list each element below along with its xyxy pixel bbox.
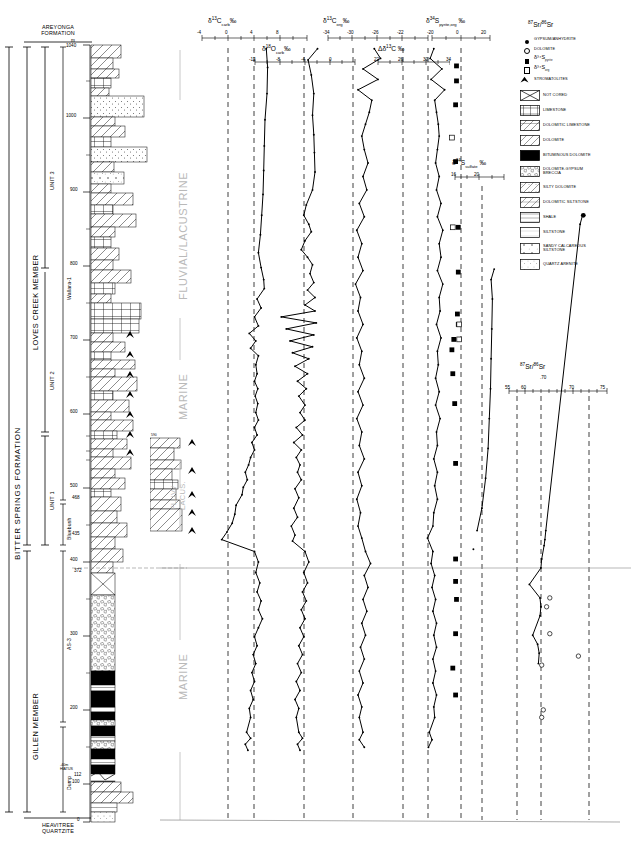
dolomite-gypsum-breccia-swatch-icon <box>520 166 540 177</box>
legend-lithology-row: NOT CORED <box>520 88 630 102</box>
dolomitic-limestone-swatch-icon <box>520 120 540 131</box>
legend-lithology-label: LIMESTONE <box>543 108 566 112</box>
legend-lithology-list: NOT COREDLIMESTONEDOLOMITIC LIMESTONEDOL… <box>520 88 630 272</box>
legend-lithology-row: SILTSTONE <box>520 225 630 239</box>
bituminous-dolomite-swatch-icon <box>520 150 540 161</box>
legend-symbol-label: δ³⁴Sorg <box>534 65 549 72</box>
legend-lithology-row: SANDY CALCAREOUSSILTSTONE <box>520 240 630 256</box>
legend-lithology-row: DOLOMITIC LIMESTONE <box>520 118 630 132</box>
legend-lithology-label: SILTY DOLOMITE <box>543 185 576 189</box>
legend-lithology-row: SILTY DOLOMITE <box>520 180 630 194</box>
siltstone-swatch-icon <box>520 227 540 238</box>
legend-symbol-label: STROMATOLITES <box>534 77 568 81</box>
quartz-arenite-swatch-icon <box>520 259 540 270</box>
legend-symbol-label: δ³⁴Spyrite <box>534 55 553 62</box>
legend-lithology-row: LIMESTONE <box>520 103 630 117</box>
legend-lithology-row: SHALE <box>520 210 630 224</box>
not-cored-swatch-icon <box>520 90 540 101</box>
legend-lithology-label: DOLOMITIC LIMESTONE <box>543 123 590 127</box>
legend-symbol-row: GYPSUM/ANHYDRITE <box>520 34 630 44</box>
legend-lithology-label: NOT CORED <box>543 93 567 97</box>
legend-title-Sr: 87Sr/86Sr <box>528 20 553 28</box>
legend-symbol-row: δ³⁴Sorg <box>520 64 630 74</box>
legend-lithology-label: DOLOMITE <box>543 138 564 142</box>
shale-swatch-icon <box>520 212 540 223</box>
legend-lithology-row: QUARTZ ARENITE <box>520 257 630 271</box>
legend-symbol-label: GYPSUM/ANHYDRITE <box>534 37 576 41</box>
legend-symbol-row: STROMATOLITES <box>520 74 630 84</box>
legend-symbol-row: δ³⁴Spyrite <box>520 54 630 64</box>
legend-lithology-label: DOLOMITE-GYPSUMBRECCIA <box>543 167 583 176</box>
limestone-swatch-icon <box>520 105 540 116</box>
legend-lithology-row: BITUMINOUS DOLOMITE <box>520 148 630 162</box>
legend-lithology-label: QUARTZ ARENITE <box>543 262 578 266</box>
silty-dolomite-swatch-icon <box>520 182 540 193</box>
legend-symbol-label: DOLOMITE <box>534 47 555 51</box>
legend-lithology-label: SANDY CALCAREOUSSILTSTONE <box>543 244 586 253</box>
legend-lithology-row: DOLOMITE-GYPSUMBRECCIA <box>520 163 630 179</box>
legend-lithology-label: SILTSTONE <box>543 230 565 234</box>
sandy-calcareous-siltstone-swatch-icon <box>520 243 540 254</box>
figure-canvas: AREYONGAFORMATION HEAVITREEQUARTZITE BIT… <box>0 0 631 842</box>
dolomite-swatch-icon <box>520 135 540 146</box>
legend-symbol-row: DOLOMITE <box>520 44 630 54</box>
stromatolite-icon <box>520 76 534 83</box>
legend-lithology-row: DOLOMITIC SILTSTONE <box>520 195 630 209</box>
legend-symbol-list: GYPSUM/ANHYDRITEDOLOMITEδ³⁴Spyriteδ³⁴Sor… <box>520 34 630 84</box>
legend-lithology-row: DOLOMITE <box>520 133 630 147</box>
dolomitic-siltstone-swatch-icon <box>520 197 540 208</box>
legend-lithology-label: SHALE <box>543 215 556 219</box>
legend-lithology-label: BITUMINOUS DOLOMITE <box>543 153 591 157</box>
legend-lithology-label: DOLOMITIC SILTSTONE <box>543 200 589 204</box>
